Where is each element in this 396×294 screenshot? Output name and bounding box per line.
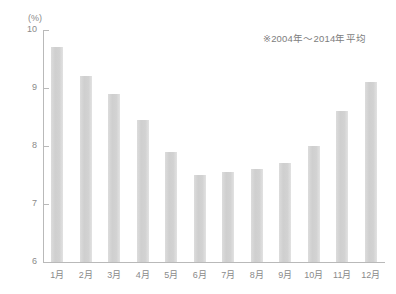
x-label-7月: 7月 (215, 268, 241, 281)
bar-slot (358, 30, 384, 262)
y-tick-label: 9 (32, 82, 37, 93)
x-label-4月: 4月 (130, 268, 156, 281)
bar-slot (44, 30, 70, 262)
y-tick-label: 10 (27, 24, 37, 35)
bar-6月 (194, 175, 206, 262)
bar-2月 (80, 76, 92, 262)
x-label-6月: 6月 (187, 268, 213, 281)
bar-slot (73, 30, 99, 262)
bar-slot (215, 30, 241, 262)
bar-slot (244, 30, 270, 262)
bar-slot (272, 30, 298, 262)
x-label-5月: 5月 (158, 268, 184, 281)
y-axis-unit-label: (%) (28, 13, 42, 23)
y-tick-label: 6 (32, 256, 37, 267)
bar-slot (329, 30, 355, 262)
y-tick-mark (43, 262, 49, 263)
bar-slot (130, 30, 156, 262)
bar-slot (301, 30, 327, 262)
x-label-1月: 1月 (44, 268, 70, 281)
x-label-8月: 8月 (244, 268, 270, 281)
bar-10月 (308, 146, 320, 262)
x-label-3月: 3月 (101, 268, 127, 281)
y-tick-label: 8 (32, 140, 37, 151)
x-label-9月: 9月 (272, 268, 298, 281)
bar-11月 (336, 111, 348, 262)
bar-slot (158, 30, 184, 262)
plot-area: 109876 1月2月3月4月5月6月7月8月9月10月11月12月 (43, 30, 385, 262)
bar-slot (101, 30, 127, 262)
bar-12月 (365, 82, 377, 262)
x-label-12月: 12月 (358, 268, 384, 281)
y-tick-label: 7 (32, 198, 37, 209)
bar-4月 (137, 120, 149, 262)
bar-8月 (251, 169, 263, 262)
x-label-11月: 11月 (329, 268, 355, 281)
bar-3月 (108, 94, 120, 262)
x-label-10月: 10月 (301, 268, 327, 281)
bar-9月 (279, 163, 291, 262)
bar-slot (187, 30, 213, 262)
bar-series (43, 30, 385, 262)
bar-1月 (51, 47, 63, 262)
x-label-2月: 2月 (73, 268, 99, 281)
bar-chart: (%) ※2004年～2014年平均 109876 1月2月3月4月5月6月7月… (0, 0, 396, 294)
x-axis-line (43, 262, 385, 263)
bar-7月 (222, 172, 234, 262)
bar-5月 (165, 152, 177, 262)
